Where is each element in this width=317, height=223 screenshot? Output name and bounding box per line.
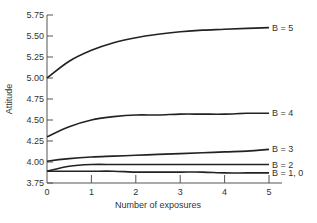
series-label: B = 4 — [272, 108, 293, 118]
series-label: B = 3 — [272, 144, 293, 154]
series-line — [47, 28, 269, 78]
x-axis-title: Number of exposures — [115, 200, 202, 210]
series-label: B = 5 — [272, 23, 293, 33]
x-axis: 012345 — [44, 175, 282, 197]
x-tick-label: 2 — [133, 187, 138, 197]
series-line — [47, 171, 269, 173]
series-line — [47, 113, 269, 137]
line-chart: 3.754.004.254.504.755.005.255.505.75 012… — [0, 0, 317, 223]
y-tick-label: 4.25 — [26, 136, 44, 146]
series-line — [47, 164, 269, 171]
y-tick-label: 5.25 — [26, 52, 44, 62]
y-tick-label: 3.75 — [26, 178, 44, 188]
x-tick-label: 3 — [178, 187, 183, 197]
series-line — [47, 149, 269, 161]
y-tick-label: 4.75 — [26, 94, 44, 104]
y-tick-label: 4.50 — [26, 115, 44, 125]
x-tick-label: 4 — [222, 187, 227, 197]
y-tick-label: 5.75 — [26, 10, 44, 20]
x-tick-label: 0 — [44, 187, 49, 197]
x-tick-label: 5 — [266, 187, 271, 197]
y-tick-label: 5.00 — [26, 73, 44, 83]
series-lines — [47, 28, 269, 173]
y-tick-label: 4.00 — [26, 157, 44, 167]
series-label: B = 1, 0 — [272, 168, 303, 178]
y-axis-title: Attitude — [4, 84, 14, 115]
series-labels: B = 5B = 4B = 3B = 2B = 1, 0 — [272, 23, 303, 178]
x-tick-label: 1 — [89, 187, 94, 197]
y-tick-label: 5.50 — [26, 31, 44, 41]
